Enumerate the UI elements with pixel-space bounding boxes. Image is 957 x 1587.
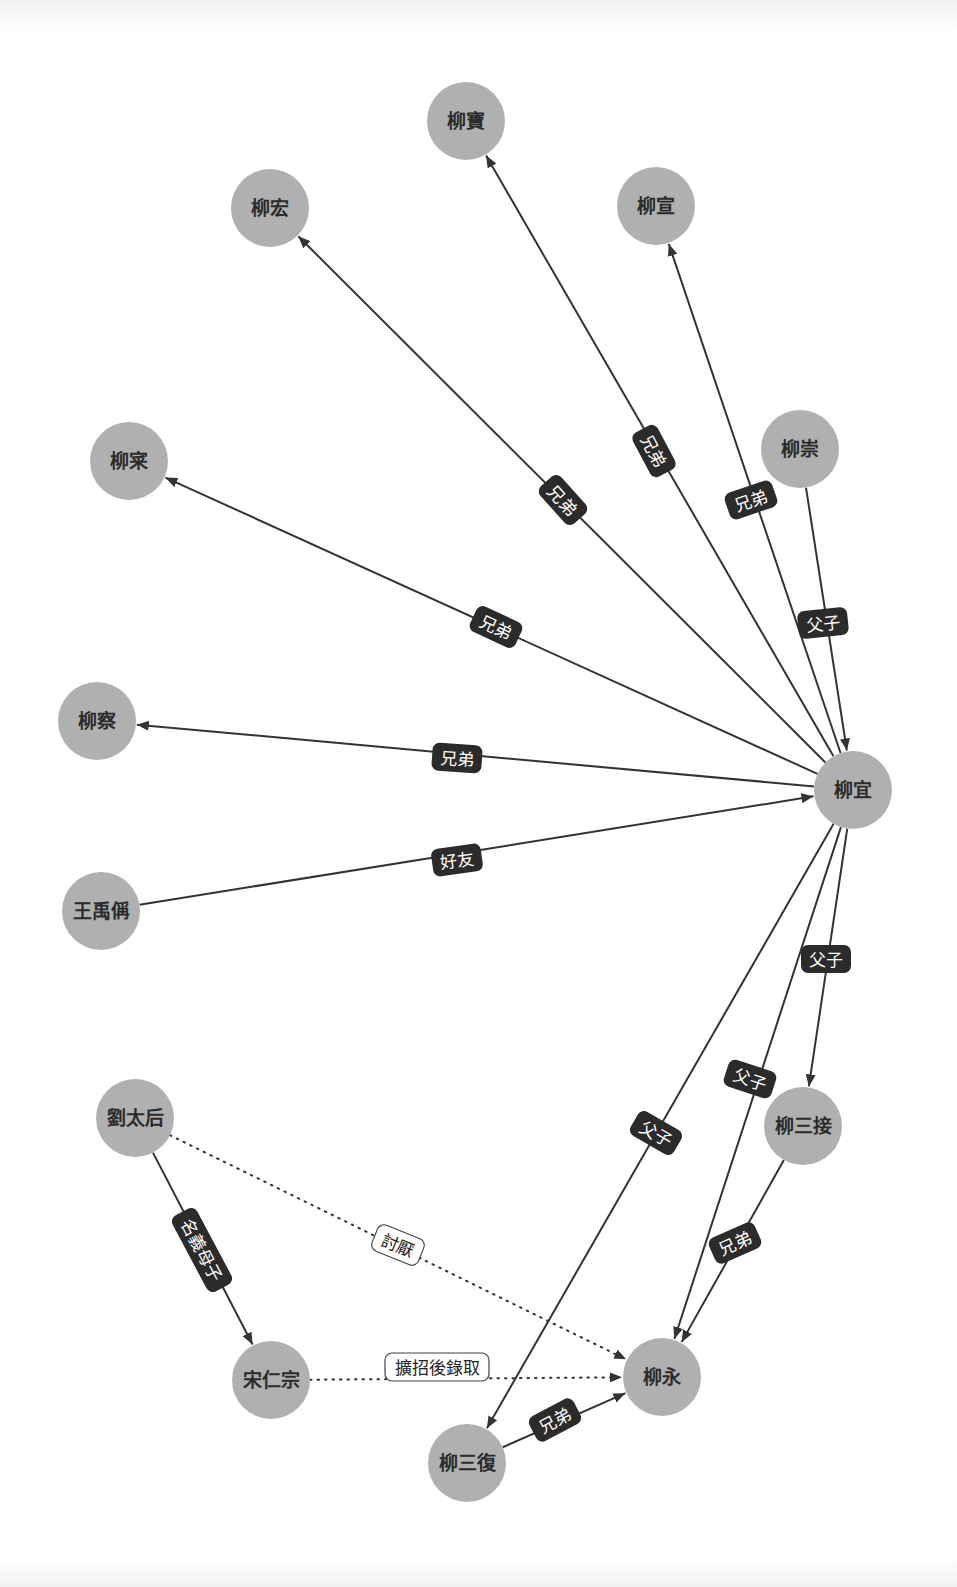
node-liuxuan[interactable]: 柳宣 <box>617 167 695 245</box>
edge-labels-layer: 兄弟兄弟兄弟父子兄弟兄弟好友父子父子父子兄弟兄弟名義母子討厭擴招後錄取 <box>169 422 851 1444</box>
node-label: 柳永 <box>643 1366 682 1388</box>
node-label: 柳三復 <box>439 1452 497 1474</box>
node-label: 宋仁宗 <box>242 1369 300 1391</box>
edge-label-text: 擴招後錄取 <box>395 1358 480 1378</box>
node-liuhong[interactable]: 柳宏 <box>231 169 309 247</box>
node-label: 柳察 <box>78 710 117 732</box>
node-liucha[interactable]: 柳察 <box>58 682 136 760</box>
nodes-layer: 柳寶柳宏柳宣柳崇柳宷柳察柳宜王禹偁劉太后柳三接宋仁宗柳永柳三復 <box>58 82 892 1502</box>
node-label: 柳崇 <box>781 438 819 460</box>
edge-label: 討厭 <box>370 1223 427 1268</box>
edge-label: 兄弟 <box>526 1396 583 1444</box>
node-label: 柳宜 <box>834 779 872 801</box>
node-label: 柳宷 <box>110 450 148 472</box>
node-liusanfu[interactable]: 柳三復 <box>428 1424 506 1502</box>
node-wangyucheng[interactable]: 王禹偁 <box>62 872 140 950</box>
node-label: 柳三接 <box>775 1115 832 1137</box>
node-liusanjie[interactable]: 柳三接 <box>764 1087 842 1165</box>
edge-label: 兄弟 <box>467 604 524 651</box>
edge-label: 名義母子 <box>169 1205 234 1294</box>
edge-label-text: 兄弟 <box>439 748 474 770</box>
node-label: 王禹偁 <box>73 900 130 922</box>
node-liucai[interactable]: 柳宷 <box>90 422 168 500</box>
edge-label: 父子 <box>797 606 850 639</box>
node-liuyong[interactable]: 柳永 <box>623 1338 701 1416</box>
node-label: 劉太后 <box>107 1107 164 1129</box>
node-label: 柳寶 <box>447 110 485 132</box>
node-label: 柳宣 <box>637 195 675 217</box>
edge-label: 擴招後錄取 <box>385 1353 489 1381</box>
edge-label: 兄弟 <box>706 1220 763 1266</box>
edge-label: 好友 <box>430 843 483 878</box>
edge-label-text: 父子 <box>805 612 841 635</box>
edge-label: 父子 <box>627 1108 684 1157</box>
edge-label-text: 父子 <box>809 950 843 970</box>
edge-label: 父子 <box>722 1058 778 1100</box>
node-label: 柳宏 <box>251 197 289 219</box>
relationship-graph: 兄弟兄弟兄弟父子兄弟兄弟好友父子父子父子兄弟兄弟名義母子討厭擴招後錄取 柳寶柳宏… <box>0 0 957 1587</box>
node-liubao[interactable]: 柳寶 <box>427 82 505 160</box>
edge-label: 兄弟 <box>630 422 678 479</box>
edge-label: 兄弟 <box>431 742 483 773</box>
edge-label: 父子 <box>801 945 851 973</box>
node-liuchong[interactable]: 柳崇 <box>761 410 839 488</box>
node-songrenzong[interactable]: 宋仁宗 <box>232 1341 310 1419</box>
node-liutaihou[interactable]: 劉太后 <box>96 1079 174 1157</box>
node-liuyi[interactable]: 柳宜 <box>814 751 892 829</box>
